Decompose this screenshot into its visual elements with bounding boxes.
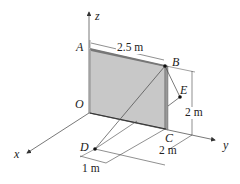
dim-ab-label: 2.5 m [116, 42, 144, 54]
point-b [163, 64, 167, 68]
label-x: x [14, 148, 19, 160]
dim-bc-ext-top [166, 66, 195, 72]
label-o: O [75, 98, 84, 110]
support-e [168, 97, 180, 106]
point-d [93, 147, 97, 151]
dim-cy-label: 2 m [159, 145, 177, 157]
label-b: B [172, 56, 179, 68]
label-e: E [180, 84, 187, 96]
c-construction [106, 129, 165, 163]
label-d: D [80, 141, 89, 153]
panel-plate [90, 49, 165, 129]
dim-bc-label: 2 m [184, 107, 204, 119]
label-z: z [95, 10, 100, 22]
dim-d-label: 1 m [82, 163, 100, 175]
label-a: A [76, 41, 83, 53]
panel-side-edge [165, 66, 168, 130]
label-c: C [165, 132, 173, 144]
diagram-canvas: z y x A B C D E O 2.5 m 2 m 2 m 1 m [0, 0, 240, 184]
label-y: y [223, 139, 228, 151]
d-construction-1 [95, 121, 137, 149]
diagram-graphics [0, 0, 240, 184]
